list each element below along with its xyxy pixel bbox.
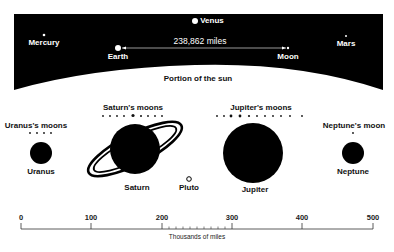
moon-dot — [287, 47, 289, 49]
distance-label: 238,862 miles — [174, 37, 227, 46]
mercury-label: Mercury — [28, 39, 59, 47]
scale-tick-label: 400 — [296, 214, 309, 222]
uranus-planet — [30, 142, 52, 164]
jupiter-planet — [223, 123, 283, 183]
neptune-planet — [342, 142, 364, 164]
uranus-moons-dots — [29, 132, 52, 134]
mars-label: Mars — [337, 40, 356, 48]
mercury-dot — [43, 34, 46, 37]
venus-dot — [192, 18, 198, 24]
saturn-moons-label: Saturn's moons — [103, 104, 163, 112]
sun-label: Portion of the sun — [164, 75, 232, 83]
jupiter-moons-label: Jupiter's moons — [230, 104, 291, 112]
mars-dot — [345, 35, 347, 37]
scale-title: Thousands of miles — [169, 234, 225, 241]
moon-label: Moon — [277, 53, 298, 61]
pluto-planet — [187, 177, 192, 182]
saturn-label: Saturn — [124, 184, 149, 192]
neptune-moon-label: Neptune's moon — [323, 122, 385, 130]
jupiter-moons-dots — [216, 115, 303, 118]
uranus-moons-label: Uranus's moons — [5, 122, 67, 130]
saturn-moons-dots — [102, 114, 163, 117]
scale-tick-label: 200 — [156, 214, 169, 222]
scale-tick-label: 500 — [367, 214, 380, 222]
scale-tick-label: 300 — [226, 214, 239, 222]
scale-tick-label: 0 — [19, 214, 23, 222]
earth-dot — [115, 45, 121, 51]
neptune-label: Neptune — [337, 168, 369, 176]
uranus-label: Uranus — [27, 168, 55, 176]
scale-tick-label: 100 — [85, 214, 98, 222]
jupiter-label: Jupiter — [242, 186, 269, 194]
neptune-moon-dot — [352, 132, 354, 134]
pluto-label: Pluto — [179, 184, 199, 192]
venus-label: Venus — [200, 17, 224, 25]
earth-label: Earth — [108, 53, 128, 61]
saturn-planet — [82, 112, 188, 186]
